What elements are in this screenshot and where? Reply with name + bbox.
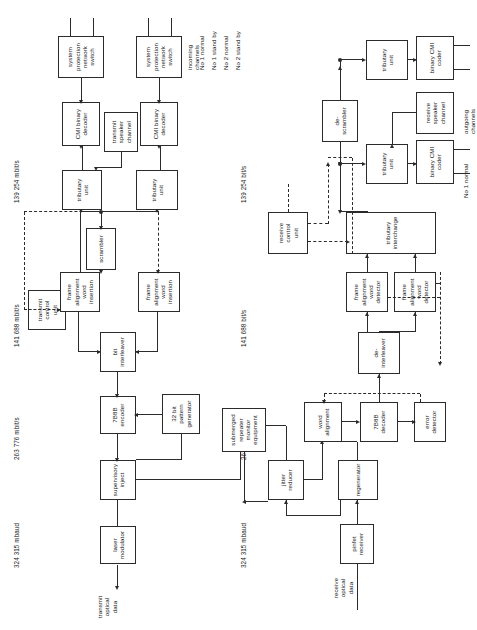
box-cmi-coder-1[interactable]: binary CMIcoder: [416, 140, 454, 184]
link-cmi2-trib2: [160, 146, 161, 170]
arrow-trib2-out: [155, 209, 159, 213]
bus-rx-right-down: [340, 59, 364, 60]
stub-no1-normal: [70, 18, 71, 36]
link-jitter-down: [304, 479, 322, 480]
link-faw2-interleaver-v: [136, 351, 158, 352]
box-cmi-decoder-2[interactable]: CMI binarydecoder: [140, 102, 178, 146]
label-rx-outgoing-channels: outgoingchannels: [462, 64, 477, 134]
link-sps2-cmi2: [159, 78, 160, 102]
link-regen-wordalign: [357, 442, 358, 460]
arrow-rcu-down-1: [346, 240, 350, 244]
arrow-trib2-to-cmi2: [413, 58, 417, 62]
rcu-dashed-down-1: [308, 241, 348, 242]
box-7b8b-decoder[interactable]: 7B8Bdecoder: [360, 402, 398, 442]
box-sps-1[interactable]: systemprotectionnetworkswitch: [58, 36, 104, 78]
link-interleaver-encoder: [117, 372, 118, 396]
arrow-tcu-faw2: [156, 270, 160, 274]
link-descrambler-junction: [340, 142, 341, 164]
link-sps1-cmi1: [81, 78, 82, 102]
link-speaker-to-trib: [121, 152, 122, 168]
box-tributary-interchange[interactable]: tributaryinterchange: [346, 212, 436, 254]
box-32bit-pattern-generator[interactable]: 32 bitpatterngenerator: [162, 394, 200, 434]
receive-optical-data-label: receiveopticaldata: [332, 570, 354, 606]
link-supervisory-srme-h: [240, 452, 241, 480]
arrow-trib1-out: [79, 209, 83, 213]
link-trib1-speaker-h: [392, 113, 393, 144]
arrow-into-jitter: [284, 500, 288, 504]
link-speaker-riser: [96, 167, 121, 168]
bus-rx-interchange-v: [340, 211, 368, 212]
arrow-trib1-to-speaker: [390, 144, 394, 148]
box-faw-insertion-2[interactable]: framealignmentwordinsertion: [138, 272, 180, 312]
box-rx-tributary-unit-1[interactable]: tributaryunit: [366, 144, 408, 184]
transmit-optical-data-label: transmitopticaldata: [96, 590, 118, 624]
box-tx-tributary-unit-2[interactable]: tributaryunit: [136, 170, 178, 210]
arrow-errdet-to-wordalign: [322, 400, 326, 404]
box-cmi-coder-2[interactable]: binary CMIcoder: [416, 36, 454, 80]
stub-no2-standby: [171, 18, 172, 36]
arrow-rx-bus-left: [338, 210, 342, 214]
link-regen-to-jitter-v: [286, 515, 340, 516]
link-trib1-speaker-v: [392, 112, 416, 113]
rate-label-rx-agg: 141 688 bit/s: [240, 310, 247, 347]
box-7b8b-encoder[interactable]: 7B8Bencoder: [100, 396, 136, 434]
box-faw-insertion-1[interactable]: framealignmentwordinsertion: [60, 272, 100, 312]
box-de-scrambler[interactable]: de-scrambler: [322, 100, 358, 142]
link-jitter-to-srme-h: [244, 452, 245, 502]
rcu-dashed-right: [328, 164, 329, 224]
label-tx-no2-standby: No 2 stand by: [234, 0, 241, 70]
bus-tx-down: [101, 211, 159, 212]
bus-tx-up: [80, 211, 101, 212]
box-sps-2[interactable]: systemprotectionnetworkswitch: [136, 36, 182, 78]
rx-dashed-faw1-down: [388, 297, 440, 298]
box-cmi-decoder-1[interactable]: CMI binarydecoder: [62, 102, 100, 146]
link-laser-supervisory: [117, 500, 118, 526]
box-bit-interleaver[interactable]: bitinterleaver: [100, 332, 136, 372]
errdet-dashed-v: [324, 393, 420, 394]
box-receive-speaker-channel[interactable]: receivespeakerchannel: [416, 92, 454, 134]
link-jitter-down-h: [322, 442, 323, 480]
arrow-faw1-to-interchange: [365, 254, 369, 258]
rate-label-tx-trib: 139 254 mbit/s: [13, 160, 20, 203]
box-transmit-speaker-channel[interactable]: transmitspeakerchannel: [104, 112, 138, 152]
box-word-alignment[interactable]: wordalignment: [304, 402, 342, 442]
box-receive-control-unit[interactable]: receivecontrolunit: [268, 212, 308, 254]
box-error-detector[interactable]: errordetector: [414, 402, 446, 442]
link-srme-jitter-return: [286, 426, 287, 460]
link-srme-jitter-return-v: [266, 425, 286, 426]
box-rx-tributary-unit-2[interactable]: tributaryunit: [366, 40, 408, 80]
arrow-rcu-right: [326, 162, 330, 166]
rx-dashed-faw2-down: [436, 283, 440, 284]
label-tx-no1-standby: No 1 stand by: [210, 0, 217, 70]
link-encoder-supervisory: [117, 434, 118, 460]
arrow-deint-to-faw2: [413, 312, 417, 316]
box-laser-modulator[interactable]: lasermodulator: [100, 526, 136, 564]
label-tx-incoming-channels: incomingchannels: [186, 0, 201, 70]
box-faw-detector-1[interactable]: framealignmentworddetector: [346, 272, 388, 312]
box-de-interleaver[interactable]: de-interleaver: [358, 332, 400, 374]
arrow-deint-to-faw1: [365, 312, 369, 316]
box-faw-detector-2[interactable]: framealignmentworddetector: [394, 272, 436, 312]
box-pinfet-receiver[interactable]: pinfetreceiver: [340, 524, 374, 564]
link-deint-faw2-v: [379, 331, 415, 332]
box-supervisory-inject[interactable]: supervisoryinject: [100, 460, 136, 500]
stub-no1-standby: [93, 18, 94, 36]
box-tx-tributary-unit-1[interactable]: tributaryunit: [62, 170, 102, 210]
box-submerged-repeater-monitor[interactable]: submergedrepeatermonitorequipment: [222, 408, 266, 452]
rate-label-tx-agg: 141 688 mbit/s: [13, 304, 20, 347]
box-regenerator[interactable]: regenerator: [338, 460, 378, 500]
box-jitter-reducer[interactable]: jitterreducer: [268, 460, 304, 500]
arrow-junction-to-scrambler: [99, 226, 103, 230]
arrow-speaker-into-trib1: [94, 167, 98, 171]
tcu-dashed-bus-top: [24, 212, 25, 310]
arrow-sps1-to-cmi1: [79, 100, 83, 104]
tcu-dashed-to-faw2: [158, 212, 159, 272]
link-patterngen-encoder-v: [136, 414, 162, 415]
tcu-dashed-down-faw1: [24, 309, 60, 310]
arrow-into-regenerator: [355, 500, 359, 504]
arrow-into-supervisory: [115, 458, 119, 462]
rx-dashed-bus: [440, 272, 441, 364]
box-scrambler[interactable]: scrambler: [86, 228, 116, 270]
bus-tx-to-faw1: [80, 212, 81, 272]
